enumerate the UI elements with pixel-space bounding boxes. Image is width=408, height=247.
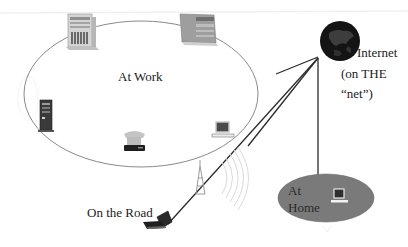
rack-server-icon xyxy=(180,14,218,46)
internet-label: Internet xyxy=(357,45,398,60)
work-zone-label: At Work xyxy=(118,69,163,84)
telephone-icon xyxy=(124,131,145,151)
desktop-computer-icon xyxy=(212,122,234,137)
home-label-line2: Home xyxy=(288,200,320,215)
road-zone-label: On the Road xyxy=(87,205,153,220)
dark-tower-server-icon xyxy=(38,100,54,132)
home-label-line1: At xyxy=(288,183,301,198)
network-diagram: At Work Internet (on THE “net”) On the R… xyxy=(0,0,408,247)
wireless-signal-icon xyxy=(222,147,249,210)
top-rule xyxy=(0,11,408,13)
tower-server-icon xyxy=(66,14,99,50)
internet-sublabel-1: (on THE xyxy=(341,66,387,81)
internet-sublabel-2: “net”) xyxy=(341,86,373,101)
globe-icon xyxy=(320,21,360,61)
home-reflection xyxy=(323,226,331,232)
